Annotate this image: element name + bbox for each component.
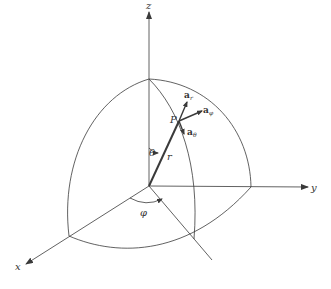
z-axis-label: z	[145, 0, 152, 11]
svg-text:r: r	[190, 94, 194, 101]
arc-z-to-x	[68, 79, 149, 236]
point-p-label: P	[169, 114, 177, 125]
phi-label: φ	[140, 207, 147, 218]
meridian-through-p	[149, 79, 195, 239]
a-phi-label: a φ	[203, 105, 214, 117]
svg-text:θ: θ	[193, 131, 197, 138]
y-axis	[149, 186, 308, 187]
a-theta-label: a θ	[187, 127, 197, 138]
spherical-coordinates-diagram: z y x P r θ φ a r a φ a θ	[0, 0, 331, 289]
x-axis-label: x	[15, 261, 21, 272]
theta-label: θ	[149, 147, 155, 158]
svg-text:φ: φ	[209, 109, 214, 117]
x-axis	[26, 186, 149, 264]
arc-x-to-y	[69, 187, 251, 248]
radius-label: r	[167, 151, 173, 162]
arc-z-to-y	[149, 79, 251, 187]
projection-line	[149, 186, 212, 260]
a-r-label: a r	[184, 90, 194, 101]
y-axis-label: y	[310, 182, 317, 193]
phi-arc	[130, 198, 162, 203]
